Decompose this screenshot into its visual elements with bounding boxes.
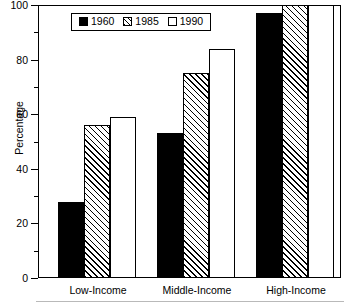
bar-low-income-1960[interactable]: [58, 202, 84, 278]
y-tick-label-80: 80: [0, 55, 28, 65]
legend-label-1990: 1990: [180, 16, 203, 27]
y-tick-label-0: 0: [0, 273, 28, 283]
y-tick-label-20: 20: [0, 218, 28, 228]
legend-entry-1960[interactable]: 1960: [79, 16, 114, 27]
open-white-swatch-icon: [168, 17, 177, 26]
legend: 1960 1985 1990: [71, 13, 211, 31]
y-tick-major-20: [31, 223, 38, 224]
y-tick-major-0: [31, 278, 38, 279]
bar-middle-income-1990[interactable]: [209, 49, 235, 278]
y-tick-major-60: [31, 114, 38, 115]
legend-label-1985: 1985: [135, 16, 158, 27]
y-tick-label-100: 100: [0, 0, 28, 10]
legend-entry-1990[interactable]: 1990: [168, 16, 203, 27]
x-tick-label-high-income: High-Income: [236, 284, 346, 296]
bars-layer: [38, 5, 341, 278]
y-tick-major-40: [31, 169, 38, 170]
legend-label-1960: 1960: [91, 16, 114, 27]
bar-chart: 100 80 60 40 20 0 Percentage Low-Income …: [0, 0, 346, 306]
bar-middle-income-1960[interactable]: [157, 133, 183, 278]
bar-low-income-1985[interactable]: [84, 125, 110, 278]
hatched-swatch-icon: [123, 17, 132, 26]
legend-entry-1985[interactable]: 1985: [123, 16, 158, 27]
bar-low-income-1990[interactable]: [110, 117, 136, 278]
y-tick-major-80: [31, 60, 38, 61]
y-tick-major-100: [31, 5, 38, 6]
bar-high-income-1985[interactable]: [282, 5, 308, 278]
bar-high-income-1960[interactable]: [256, 13, 282, 278]
page-rule: [36, 301, 344, 302]
y-axis-title: Percentage: [13, 88, 25, 168]
solid-black-swatch-icon: [79, 17, 88, 26]
bar-middle-income-1985[interactable]: [183, 73, 209, 278]
bar-high-income-1990[interactable]: [308, 5, 334, 278]
